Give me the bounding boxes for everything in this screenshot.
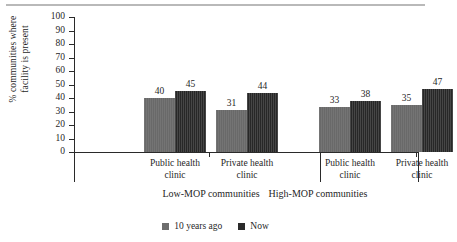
category-label: Private healthclinic: [377, 158, 457, 181]
category-label-line: Private health: [202, 158, 292, 170]
y-axis-tick-label: 0: [39, 147, 65, 157]
page-top-rule: [6, 4, 425, 6]
bar-value-label: 31: [212, 98, 251, 108]
bars-plot-area: 4031333545443847: [74, 17, 418, 152]
legend-item: 10 years ago: [162, 221, 222, 232]
category-label-line: clinic: [202, 170, 292, 182]
bar: [175, 91, 206, 152]
legend-item: Now: [238, 221, 268, 232]
bar-value-label: 35: [387, 93, 426, 103]
bar: [350, 101, 381, 152]
y-axis-tick-label: 60: [39, 66, 65, 76]
y-axis-tick-label: 10: [39, 134, 65, 144]
legend-label: 10 years ago: [174, 221, 222, 232]
gray-square-swatch: [162, 223, 169, 230]
black-square-swatch: [238, 223, 245, 230]
bar: [319, 107, 350, 152]
category-label-line: clinic: [377, 170, 457, 182]
y-axis-tick-label: 40: [39, 93, 65, 103]
category-axis-band: Public healthclinicPrivate healthclinicP…: [74, 152, 419, 182]
bar-value-label: 47: [418, 77, 457, 87]
chart-legend: 10 years agoNow: [0, 221, 431, 232]
bar: [391, 105, 422, 152]
category-band-inner-tick-high: [416, 152, 417, 157]
bar: [216, 110, 247, 152]
y-axis-label-line-1: % communities where: [8, 0, 20, 124]
y-axis-tick-label: 80: [39, 39, 65, 49]
y-axis-tick-label: 30: [39, 107, 65, 117]
bar-value-label: 45: [171, 79, 210, 89]
bar: [144, 98, 175, 152]
category-label: Private healthclinic: [202, 158, 292, 181]
y-axis-label-line-2: facility is present: [20, 0, 32, 124]
category-band-inner-tick-low: [209, 152, 210, 157]
y-axis-tick-label: 100: [39, 12, 65, 22]
bar: [422, 89, 453, 152]
bar: [247, 93, 278, 152]
y-axis-label: % communities where facility is present: [8, 0, 42, 124]
y-axis-tick-label: 90: [39, 26, 65, 36]
category-label-line: Private health: [377, 158, 457, 170]
category-band-left-edge: [74, 152, 75, 182]
legend-label: Now: [250, 221, 268, 232]
bar-value-label: 44: [243, 81, 282, 91]
y-axis-tick-label: 50: [39, 80, 65, 90]
y-axis-tick-label: 20: [39, 120, 65, 130]
group-label: High-MOP communities: [248, 188, 388, 200]
bar-value-label: 38: [346, 89, 385, 99]
y-axis-tick-label: 70: [39, 53, 65, 63]
